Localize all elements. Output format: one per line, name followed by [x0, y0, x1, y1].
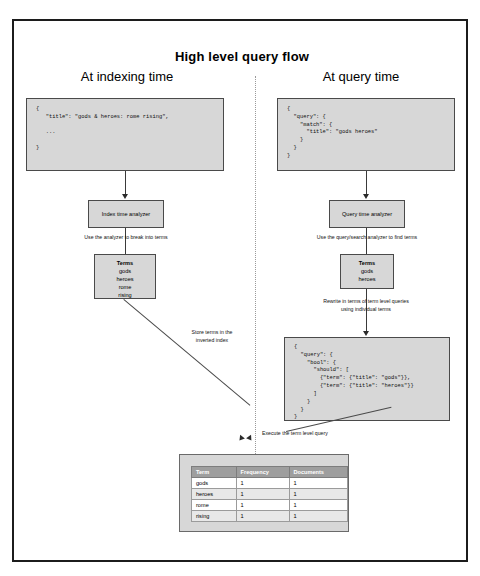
cell-frequency: 1: [236, 489, 289, 500]
arrowhead-term-query-to-index-table: [246, 435, 254, 443]
index-term-2: rome: [119, 284, 132, 290]
index-term-0: gods: [119, 268, 131, 274]
table-header-row: Term Frequency Documents: [192, 467, 348, 478]
diagram-frame: High level query flow At indexing time {…: [12, 19, 468, 562]
query-term-1: heroes: [358, 276, 375, 282]
edge-doc-to-analyzer: [125, 171, 126, 196]
table-row: rome 1 1: [192, 500, 348, 511]
table-row: gods 1 1: [192, 478, 348, 489]
cell-documents: 1: [289, 511, 348, 522]
inverted-index-panel: Term Frequency Documents gods 1 1 heroes…: [179, 454, 349, 532]
column-header-term: Term: [192, 467, 237, 478]
cell-term: rome: [192, 500, 237, 511]
inverted-index-table: Term Frequency Documents gods 1 1 heroes…: [191, 466, 348, 522]
cell-frequency: 1: [236, 478, 289, 489]
left-column-heading: At indexing time: [20, 69, 234, 84]
search-query-box: { "query": { "match": { "title": "gods h…: [277, 98, 455, 171]
cell-term: rising: [192, 511, 237, 522]
arrowhead-query-to-analyzer: [363, 194, 369, 199]
index-terms-box: Terms gods heroes rome rising: [94, 254, 156, 299]
index-terms-title: Terms: [117, 260, 133, 266]
cell-documents: 1: [289, 489, 348, 500]
cell-term: gods: [192, 478, 237, 489]
edge-query-to-analyzer: [366, 171, 367, 196]
table-row: rising 1 1: [192, 511, 348, 522]
right-column-heading: At query time: [258, 69, 464, 84]
index-term-1: heroes: [116, 276, 133, 282]
source-document-box: { "title": "gods & heroes: rome rising",…: [26, 98, 224, 171]
edge-terms-to-index-table: [123, 299, 250, 406]
term-level-query-box: { "query": { "bool": { "should": [ {"ter…: [284, 337, 450, 421]
cell-frequency: 1: [236, 511, 289, 522]
query-terms-box: Terms gods heroes: [340, 254, 394, 289]
cell-term: heroes: [192, 489, 237, 500]
caption-analyzer-break-terms: Use the analyzer to break into terms: [34, 234, 218, 242]
table-row: heroes 1 1: [192, 489, 348, 500]
diagram-title: High level query flow: [14, 49, 470, 64]
caption-store-inverted-index: Store terms in the inverted index: [162, 329, 262, 345]
cell-documents: 1: [289, 478, 348, 489]
cell-documents: 1: [289, 500, 348, 511]
query-term-0: gods: [361, 268, 373, 274]
arrowhead-terms-to-term-query: [363, 331, 369, 336]
caption-query-analyzer-find-terms: Use the query/search analyzer to find te…: [272, 234, 462, 242]
column-header-documents: Documents: [289, 467, 348, 478]
arrowhead-doc-to-analyzer: [122, 194, 128, 199]
index-time-analyzer-box: Index time analyzer: [88, 200, 164, 228]
column-divider: [255, 76, 256, 464]
column-header-frequency: Frequency: [236, 467, 289, 478]
index-term-3: rising: [118, 292, 131, 298]
arrowhead-terms-to-index-table: [237, 435, 245, 443]
query-time-analyzer-box: Query time analyzer: [329, 200, 405, 228]
query-terms-title: Terms: [359, 260, 375, 266]
caption-rewrite-term-queries: Rewrite in terms of term level queries u…: [276, 298, 456, 314]
caption-execute-term-query: Execute the term level query: [262, 430, 392, 438]
cell-frequency: 1: [236, 500, 289, 511]
